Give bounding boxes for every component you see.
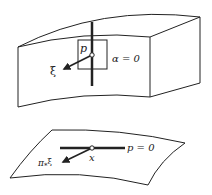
pi-xi-vector: [63, 148, 92, 162]
label-alpha-zero: α = 0: [112, 53, 140, 64]
point-p: [90, 53, 94, 57]
diagram-svg: p ξ α = 0 x p = 0 π*ξ: [0, 0, 212, 195]
label-p: p: [80, 42, 87, 55]
block-3d: [18, 14, 200, 107]
label-x: x: [89, 152, 95, 163]
label-xi: ξ: [50, 65, 56, 78]
label-pi-star-xi: π*ξ: [37, 157, 52, 170]
label-p-zero: p = 0: [127, 142, 155, 153]
point-x: [90, 146, 94, 150]
diagram-canvas: p ξ α = 0 x p = 0 π*ξ: [0, 0, 212, 195]
base-surface: [10, 130, 185, 185]
